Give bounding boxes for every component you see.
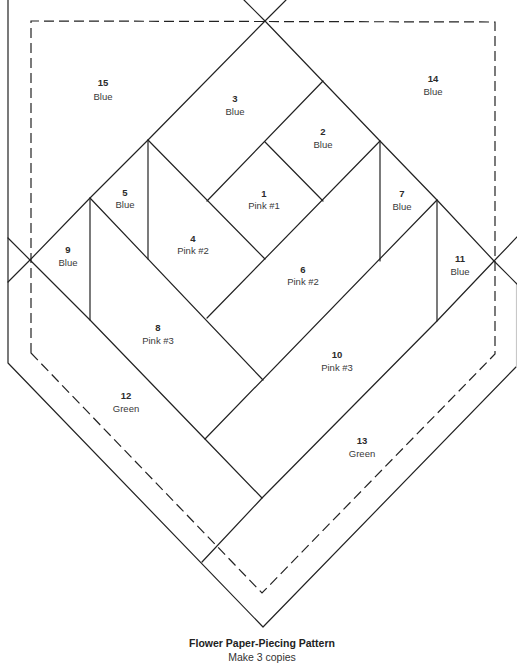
piece-number: 6 <box>300 264 305 275</box>
piece-number: 15 <box>98 77 109 88</box>
piece-fabric: Green <box>349 448 375 459</box>
piece-fabric: Blue <box>392 201 411 212</box>
piece-number: 5 <box>122 187 128 198</box>
piece-number: 11 <box>455 253 466 264</box>
piece-number: 14 <box>428 73 439 84</box>
piece-fabric: Blue <box>423 86 442 97</box>
piece-fabric: Blue <box>450 266 469 277</box>
piece-number: 13 <box>357 435 368 446</box>
piece-number: 3 <box>232 93 237 104</box>
piece-fabric: Pink #3 <box>142 335 174 346</box>
piece-number: 4 <box>190 233 196 244</box>
piece-fabric: Green <box>113 403 139 414</box>
piece-fabric: Blue <box>58 257 77 268</box>
piece-number: 8 <box>155 322 160 333</box>
pattern-title: Flower Paper-Piecing Pattern <box>189 637 335 649</box>
piece-fabric: Pink #2 <box>287 276 319 287</box>
pattern-subtitle: Make 3 copies <box>228 651 296 663</box>
paper-piecing-pattern: 1 Pink #1 2 Blue 3 Blue 4 Pink #2 5 Blue… <box>0 0 517 665</box>
piece-fabric: Blue <box>115 199 134 210</box>
piece-fabric: Pink #2 <box>177 245 209 256</box>
piece-fabric: Pink #3 <box>321 362 353 373</box>
piece-fabric: Blue <box>93 91 112 102</box>
piece-fabric: Blue <box>225 106 244 117</box>
piece-number: 2 <box>320 126 325 137</box>
piece-number: 7 <box>399 188 404 199</box>
pattern-caption: Flower Paper-Piecing Pattern Make 3 copi… <box>189 637 335 663</box>
piece-fabric: Pink #1 <box>248 200 280 211</box>
piece-number: 12 <box>121 390 132 401</box>
piece-number: 1 <box>261 188 267 199</box>
piece-number: 9 <box>65 244 70 255</box>
piece-number: 10 <box>332 349 343 360</box>
piece-fabric: Blue <box>313 139 332 150</box>
